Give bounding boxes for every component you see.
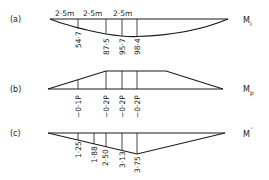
panel-b: (b) −0·1P −0·2P −0·2P −0·2P Mp <box>10 71 254 118</box>
span-3-label: 2·5m <box>113 9 132 18</box>
ordinate-value: −0·1P <box>74 95 83 118</box>
panel-b-label: (b) <box>10 85 21 94</box>
panel-a: (a) 2·5m 2·5m 2·5m 54·7 87·5 95·7 98·4 M… <box>10 9 252 55</box>
ordinate-value: 1·25 <box>74 141 83 158</box>
moment-label-m-prime: M´ <box>243 127 253 139</box>
span-2-label: 2·5m <box>83 9 102 18</box>
ordinate-value: −0·2P <box>118 95 127 118</box>
ordinate-value: −0·2P <box>102 95 111 118</box>
ordinate-value: 2·50 <box>101 149 110 166</box>
ordinate-value: 95·7 <box>118 38 127 55</box>
moment-label-mi: Mi <box>243 16 252 27</box>
moment-label-mp: Mp <box>243 85 254 97</box>
panel-b-moment-trapezoid <box>48 71 223 89</box>
ordinate-value: 3·13 <box>118 151 127 168</box>
ordinate-value: 98·4 <box>133 38 142 55</box>
bending-moment-diagrams: (a) 2·5m 2·5m 2·5m 54·7 87·5 95·7 98·4 M… <box>0 0 269 180</box>
panel-a-label: (a) <box>10 15 21 24</box>
ordinate-value: 54·7 <box>74 31 83 48</box>
ordinate-value: 1·88 <box>90 146 99 163</box>
ordinate-value: 3·75 <box>133 156 142 173</box>
ordinate-value: 87·5 <box>102 38 111 55</box>
panel-c: (c) 1·25 1·88 2·50 3·13 3·75 M´ <box>10 127 253 173</box>
ordinate-value: −0·2P <box>133 95 142 118</box>
span-1-label: 2·5m <box>55 9 74 18</box>
panel-c-label: (c) <box>10 129 21 138</box>
